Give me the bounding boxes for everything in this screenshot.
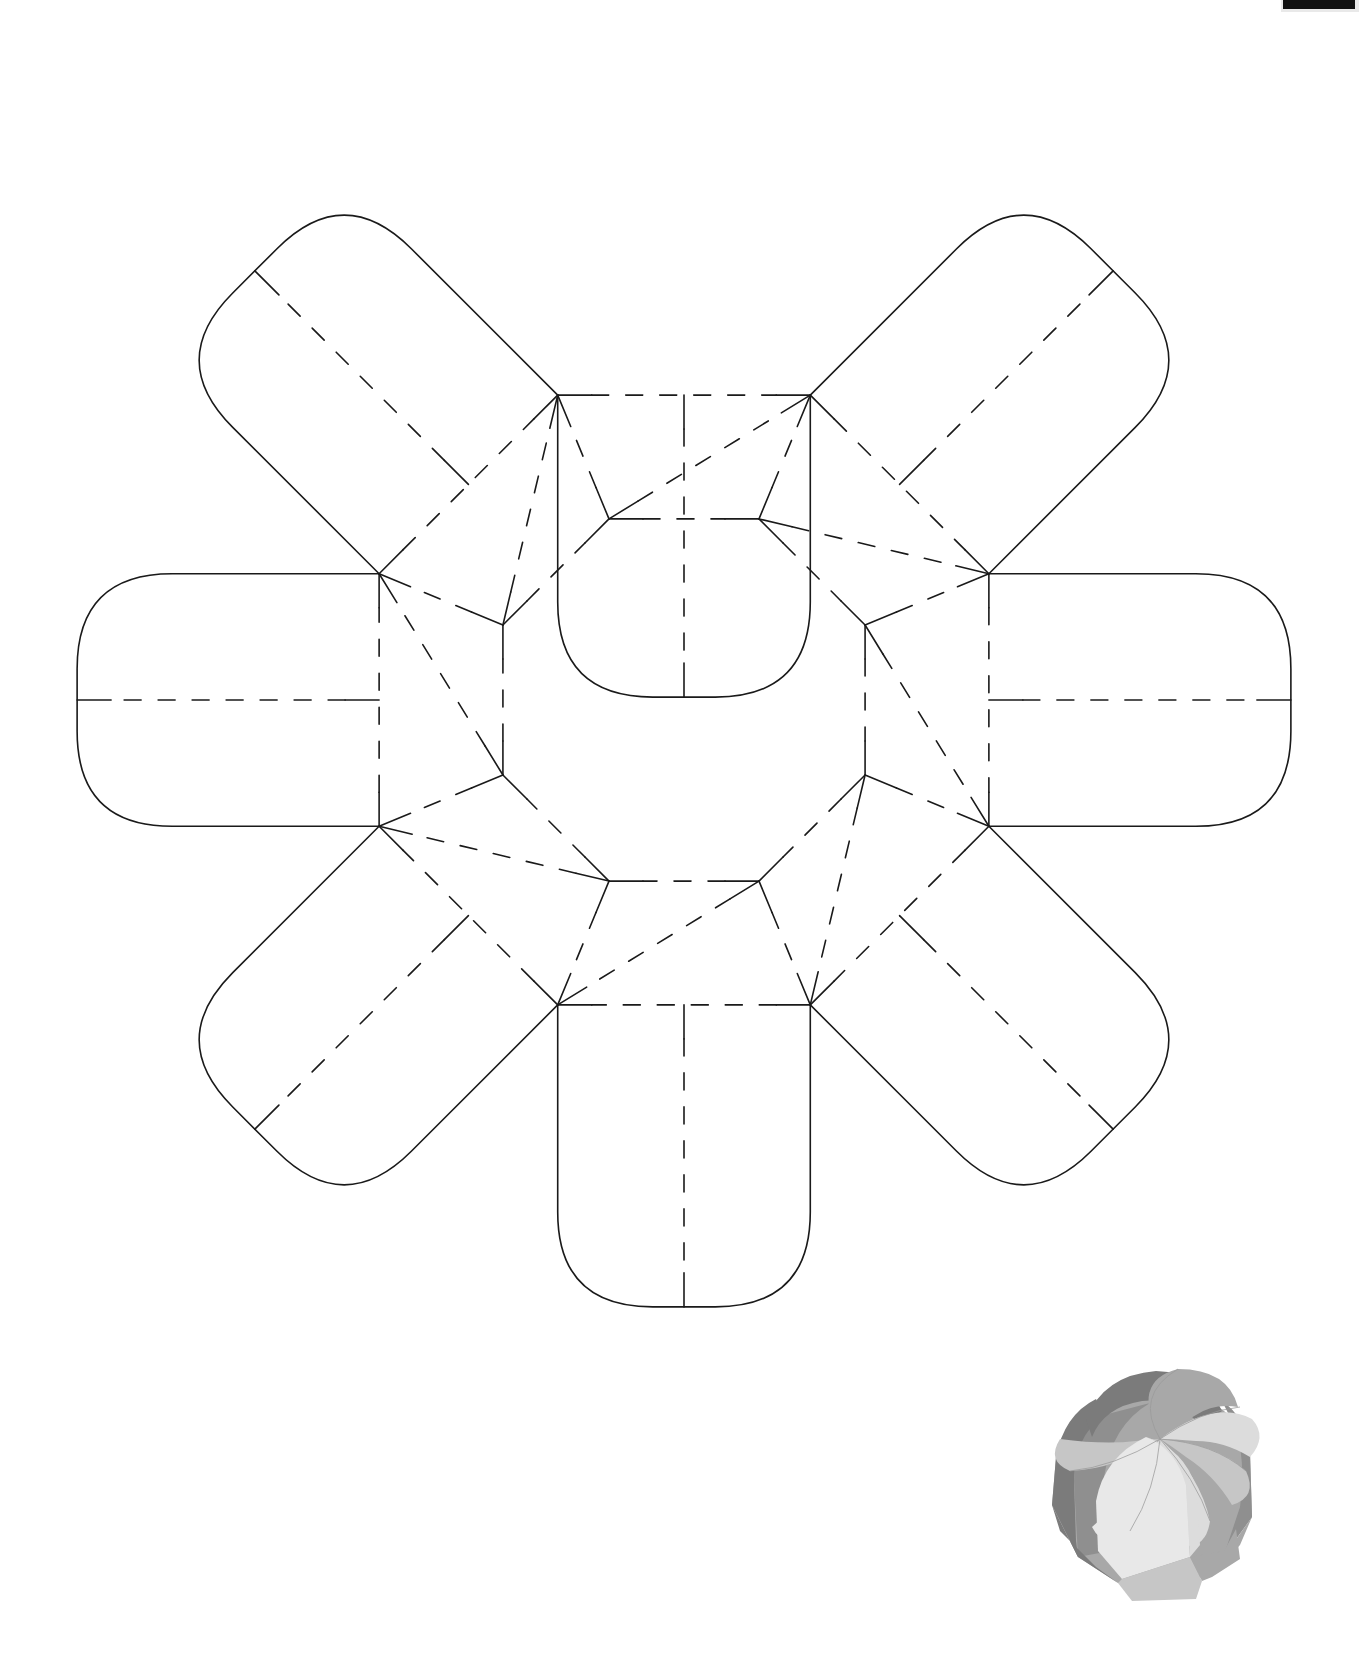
inner-octagon-tick bbox=[503, 775, 527, 799]
radial-fold-tick bbox=[596, 881, 609, 912]
petal-centre-fold-tick bbox=[900, 916, 924, 940]
petal-centre-fold bbox=[924, 295, 1089, 460]
inner-octagon-fold bbox=[783, 543, 841, 601]
pinwheel-fold-tick bbox=[485, 746, 503, 775]
radial-fold bbox=[896, 587, 957, 612]
radial-fold bbox=[411, 788, 472, 813]
petal-base-tick bbox=[534, 981, 558, 1005]
radial-fold-tick bbox=[596, 488, 609, 519]
petal-base-tick bbox=[810, 395, 834, 419]
pinwheel-fold-tick bbox=[609, 501, 638, 519]
inner-octagon-fold bbox=[527, 543, 585, 601]
radial-fold-tick bbox=[759, 881, 772, 912]
assembled-box-preview bbox=[1000, 1345, 1290, 1605]
inner-octagon-tick bbox=[759, 857, 783, 881]
radial-fold bbox=[772, 427, 797, 488]
pinwheel-fold bbox=[511, 428, 550, 592]
radial-fold-tick bbox=[865, 775, 896, 788]
petal-base-tick bbox=[965, 826, 989, 850]
pinwheel-fold bbox=[883, 654, 971, 797]
petal-centre-fold-tick bbox=[255, 1105, 279, 1129]
radial-fold bbox=[772, 912, 797, 973]
inner-octagon-fold bbox=[783, 799, 841, 857]
pinwheel-fold-tick bbox=[865, 625, 883, 654]
pinwheel-fold bbox=[397, 603, 485, 746]
radial-fold bbox=[411, 587, 472, 612]
radial-fold-tick bbox=[865, 612, 896, 625]
inner-octagon-tick bbox=[585, 519, 609, 543]
petal-base-tick bbox=[379, 550, 403, 574]
radial-fold-tick bbox=[379, 813, 410, 826]
petal-centre-fold bbox=[279, 940, 444, 1105]
pinwheel-fold bbox=[587, 899, 730, 987]
petal-centre-fold-tick bbox=[1089, 1105, 1113, 1129]
radial-fold bbox=[571, 912, 596, 973]
petal-centre-fold bbox=[924, 940, 1089, 1105]
petal-centre-fold-tick bbox=[900, 460, 924, 484]
petal-cut-outline bbox=[810, 826, 1169, 1185]
preview-svg bbox=[1000, 1345, 1290, 1605]
pinwheel-fold bbox=[818, 808, 857, 972]
radial-fold-tick bbox=[558, 395, 571, 426]
radial-fold-tick bbox=[797, 973, 810, 1004]
inner-octagon-tick bbox=[841, 601, 865, 625]
petal-centre-fold-tick bbox=[255, 271, 279, 295]
petal-centre-fold-tick bbox=[444, 916, 468, 940]
cut-and-fold-template bbox=[0, 0, 1369, 1340]
petal-centre-fold-tick bbox=[1089, 271, 1113, 295]
page-canvas bbox=[0, 0, 1369, 1658]
radial-fold bbox=[571, 427, 596, 488]
petal-cut-outline bbox=[810, 215, 1169, 574]
petal-centre-fold bbox=[279, 295, 444, 460]
net-geometry bbox=[77, 215, 1291, 1307]
radial-fold-tick bbox=[957, 574, 988, 587]
template-svg bbox=[0, 0, 1369, 1340]
petal-cut-outline bbox=[199, 215, 558, 574]
pinwheel-fold bbox=[792, 527, 956, 566]
petal-cut-outline bbox=[199, 826, 558, 1185]
radial-fold-tick bbox=[472, 775, 503, 788]
pinwheel-fold bbox=[638, 413, 781, 501]
pinwheel-fold bbox=[412, 834, 576, 873]
pinwheel-fold-tick bbox=[730, 881, 759, 899]
petal-centre-fold-tick bbox=[444, 460, 468, 484]
radial-fold bbox=[896, 788, 957, 813]
inner-octagon-fold bbox=[527, 799, 585, 857]
radial-fold-tick bbox=[472, 612, 503, 625]
radial-fold-tick bbox=[759, 488, 772, 519]
preview-geometry bbox=[1052, 1369, 1260, 1601]
